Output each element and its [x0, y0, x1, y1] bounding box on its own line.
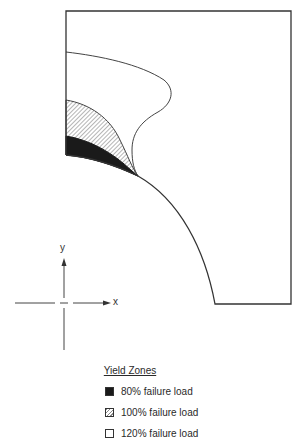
legend-item-100: 100% failure load — [105, 406, 198, 418]
white-swatch-icon — [105, 429, 114, 438]
legend-label: 80% failure load — [121, 386, 193, 397]
legend-item-80: 80% failure load — [105, 385, 193, 397]
legend-item-120: 120% failure load — [105, 427, 198, 439]
y-arrow-icon — [62, 258, 67, 266]
coordinate-axes — [15, 258, 111, 350]
legend-label: 120% failure load — [121, 428, 198, 439]
legend-title: Yield Zones — [60, 365, 200, 376]
yield-zone-diagram — [0, 0, 304, 448]
hatched-swatch-icon — [105, 408, 114, 417]
x-arrow-icon — [103, 301, 111, 306]
x-axis-label: x — [113, 296, 118, 307]
legend-label: 100% failure load — [121, 407, 198, 418]
black-swatch-icon — [105, 387, 114, 396]
y-axis-label: y — [60, 242, 65, 253]
